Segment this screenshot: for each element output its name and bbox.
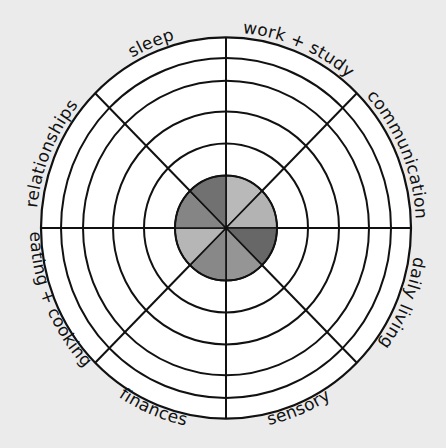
wheel-diagram: work + studycommunicationdaily livingsen… (0, 0, 446, 448)
